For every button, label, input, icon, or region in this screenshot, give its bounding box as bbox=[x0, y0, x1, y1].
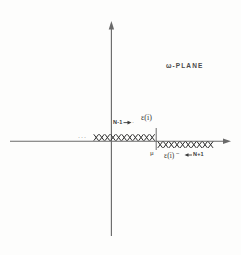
cross-mark bbox=[94, 135, 98, 141]
cross-mark bbox=[169, 142, 173, 148]
cross-mark bbox=[150, 135, 154, 141]
n-plus-1-arrow bbox=[185, 153, 193, 157]
cross-mark bbox=[105, 135, 109, 141]
cross-mark bbox=[100, 135, 104, 141]
cross-mark bbox=[192, 142, 196, 148]
cross-mark bbox=[128, 135, 132, 141]
epsilon-upper-label: ε(i) bbox=[141, 114, 152, 122]
cross-mark bbox=[208, 142, 212, 148]
figure-canvas bbox=[0, 0, 241, 255]
cross-mark bbox=[122, 135, 126, 141]
upper-cross-row bbox=[94, 135, 154, 141]
imaginary-axis-arrowhead bbox=[109, 21, 114, 30]
left-ellipsis: ··· bbox=[78, 134, 87, 140]
n-plus-1-label: N+1 bbox=[193, 152, 204, 158]
cross-mark bbox=[203, 142, 207, 148]
lower-cross-row bbox=[158, 142, 213, 148]
real-axis-arrowhead bbox=[223, 139, 231, 144]
cross-mark bbox=[180, 142, 184, 148]
mid-ellipsis: ·· bbox=[129, 119, 135, 125]
cross-mark bbox=[158, 142, 162, 148]
cross-mark bbox=[197, 142, 201, 148]
cross-mark bbox=[139, 135, 143, 141]
omega-plane-figure: ω-PLANE ε(i) N-1 μ ε(i) − N+1 ··· ·· bbox=[0, 0, 241, 255]
cross-mark bbox=[164, 142, 168, 148]
cross-mark bbox=[144, 135, 148, 141]
cross-mark bbox=[175, 142, 179, 148]
mu-label: μ bbox=[150, 150, 154, 157]
n-minus-1-label: N-1 bbox=[113, 120, 122, 126]
epsilon-lower-label: ε(i) bbox=[164, 152, 174, 160]
cross-mark bbox=[186, 142, 190, 148]
epsilon-lower-superscript: − bbox=[176, 150, 180, 156]
cross-mark bbox=[116, 135, 120, 141]
cross-mark bbox=[133, 135, 137, 141]
imaginary-axis bbox=[109, 21, 114, 236]
plane-title-label: ω-PLANE bbox=[166, 63, 203, 70]
